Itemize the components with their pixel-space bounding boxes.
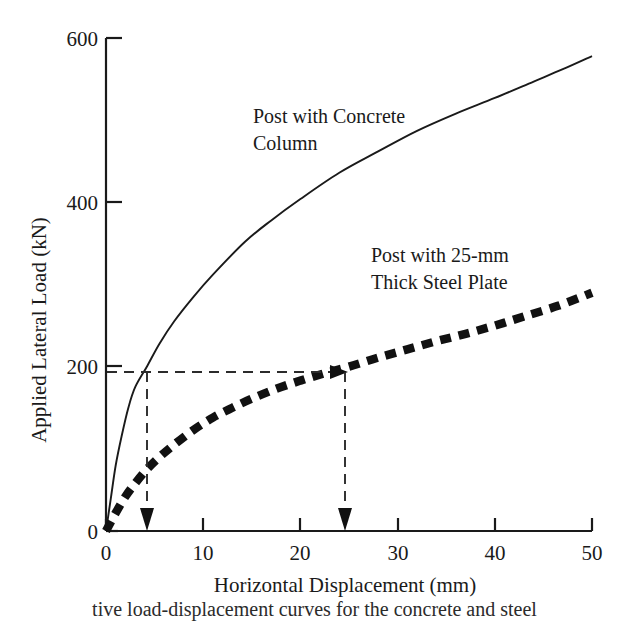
series-line-steel-plate <box>106 293 592 531</box>
x-tick-label-20: 20 <box>290 541 311 565</box>
load-displacement-chart: 600 400 200 0 0 10 20 30 40 50 Horizonta… <box>0 0 629 622</box>
series-label-steel-line1: Post with 25-mm <box>371 244 509 266</box>
y-tick-label-600: 600 <box>67 27 99 51</box>
down-arrowhead-icon-4mm <box>140 508 154 531</box>
x-axis-ticks <box>106 518 592 531</box>
x-axis-tick-labels: 0 10 20 30 40 50 <box>101 541 603 565</box>
y-axis-tick-labels: 600 400 200 0 <box>67 27 99 544</box>
x-tick-label-50: 50 <box>582 541 603 565</box>
down-arrowhead-icon-25mm <box>338 508 352 531</box>
x-tick-label-0: 0 <box>101 541 112 565</box>
chart-figure: 600 400 200 0 0 10 20 30 40 50 Horizonta… <box>0 0 629 622</box>
y-tick-label-200: 200 <box>67 355 99 379</box>
annotation-guides <box>107 365 352 531</box>
series-label-concrete-line1: Post with Concrete <box>253 105 405 127</box>
x-tick-label-10: 10 <box>193 541 214 565</box>
series-label-concrete-line2: Column <box>253 132 317 154</box>
y-axis-ticks <box>106 38 122 531</box>
y-tick-label-400: 400 <box>67 191 99 215</box>
y-axis-title: Applied Lateral Load (kN) <box>27 217 51 443</box>
series-line-concrete-column <box>106 56 592 531</box>
series-label-steel-line2: Thick Steel Plate <box>371 271 508 293</box>
x-tick-label-30: 30 <box>388 541 409 565</box>
x-tick-label-40: 40 <box>485 541 506 565</box>
x-axis-title: Horizontal Displacement (mm) <box>214 573 476 597</box>
series-label-steel-plate: Post with 25-mm Thick Steel Plate <box>371 244 509 293</box>
series-label-concrete-column: Post with Concrete Column <box>253 105 405 154</box>
y-tick-label-0: 0 <box>88 520 99 544</box>
figure-caption: tive load-displacement curves for the co… <box>0 596 629 622</box>
